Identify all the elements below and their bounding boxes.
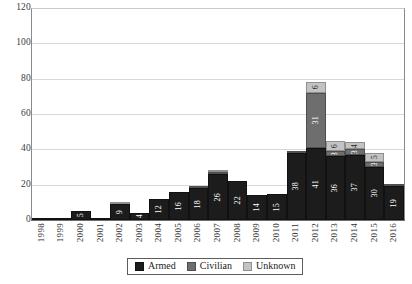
y-axis-tick-label: 120 [3, 3, 31, 13]
bar-column[interactable]: 5 [71, 211, 91, 220]
x-axis-tick-label: 2002 [115, 223, 124, 242]
bar-value-label: 22 [234, 196, 242, 204]
bar-segment-armed[interactable]: 9 [110, 204, 130, 220]
bar-value-label: 18 [194, 200, 202, 208]
bar-column[interactable]: 6336 [326, 141, 346, 220]
bar-segment-armed[interactable]: 26 [208, 174, 228, 220]
bar-column[interactable]: 19 [384, 184, 404, 220]
bar-column[interactable]: 18 [189, 186, 209, 220]
x-axis-tick-label: 2003 [135, 223, 144, 242]
bar-segment-unknown[interactable]: 6 [306, 82, 326, 93]
x-axis-tick-label: 1998 [37, 223, 46, 242]
y-axis-tick-label: 80 [3, 74, 31, 84]
legend-label-unknown: Unknown [256, 261, 295, 271]
bar-value-label: 37 [351, 183, 359, 191]
bar-segment-armed[interactable]: 15 [267, 194, 287, 221]
bar-value-label: 9 [116, 210, 124, 214]
x-axis-tick-label: 2012 [311, 223, 320, 242]
bar-segment-armed[interactable]: 16 [169, 192, 189, 220]
bar-value-label: 31 [312, 116, 320, 124]
bar-value-label: 36 [331, 184, 339, 192]
bar-segment-armed[interactable]: 37 [345, 155, 365, 220]
bar-segment-armed[interactable]: 18 [189, 188, 209, 220]
bar-value-label: 15 [273, 203, 281, 211]
x-axis-tick-label: 2004 [154, 223, 163, 242]
bar-value-label: 5 [77, 213, 85, 217]
bar-value-label: 38 [292, 182, 300, 190]
y-axis-tick-label: 20 [3, 180, 31, 190]
bar-segment-civilian[interactable]: 31 [306, 93, 326, 148]
bar-segment-armed[interactable]: 41 [306, 148, 326, 220]
bar-column[interactable]: 9 [110, 202, 130, 220]
bar-value-label: 26 [214, 193, 222, 201]
legend-label-armed: Armed [148, 261, 176, 271]
bar-column[interactable]: 14 [247, 195, 267, 220]
bar-segment-armed[interactable]: 22 [228, 181, 248, 220]
bar-segment-armed[interactable]: 19 [384, 186, 404, 220]
bar-value-label: 4 [136, 214, 144, 218]
bar-column[interactable]: 4 [130, 213, 150, 220]
legend-swatch-civilian-icon [187, 262, 196, 271]
x-axis-tick-labels: 1998199920002001200220032004200520062007… [32, 223, 404, 257]
x-axis-baseline [31, 220, 405, 221]
bar-segment-armed[interactable]: 30 [365, 167, 385, 220]
bar-column[interactable]: 4337 [345, 142, 365, 220]
x-axis-tick-label: 2011 [291, 223, 300, 242]
legend-label-civilian: Civilian [200, 261, 232, 271]
bar-value-label: 12 [155, 205, 163, 213]
y-axis-tick-label: 40 [3, 144, 31, 154]
bar-column[interactable]: 38 [287, 151, 307, 220]
y-axis-tick-label: 60 [3, 109, 31, 119]
bar-segment-armed[interactable]: 5 [71, 211, 91, 220]
stacked-bar-chart: 020406080100120 594121618262214153863141… [0, 0, 412, 284]
bar-segment-armed[interactable]: 36 [326, 156, 346, 220]
x-axis-tick-label: 2008 [233, 223, 242, 242]
bar-segment-unknown[interactable]: 6 [326, 141, 346, 152]
bar-value-label: 5 [371, 155, 379, 159]
bar-column[interactable]: 12 [149, 199, 169, 220]
bar-value-label: 6 [331, 144, 339, 148]
bar-segment-unknown[interactable]: 4 [345, 142, 365, 149]
x-axis-tick-label: 2000 [76, 223, 85, 242]
bar-column[interactable]: 16 [169, 192, 189, 220]
x-axis-tick-label: 2015 [370, 223, 379, 242]
bar-value-label: 3 [371, 162, 379, 166]
x-axis-tick-label: 1999 [56, 223, 65, 242]
bar-column[interactable]: 63141 [306, 82, 326, 220]
bar-value-label: 3 [331, 152, 339, 156]
bar-value-label: 30 [371, 189, 379, 197]
bar-column[interactable]: 15 [267, 194, 287, 221]
bar-value-label: 41 [312, 180, 320, 188]
x-axis-tick-label: 2001 [96, 223, 105, 242]
x-axis-tick-label: 2013 [330, 223, 339, 242]
bar-value-label: 6 [312, 85, 320, 89]
legend-swatch-armed-icon [135, 262, 144, 271]
bar-value-label: 4 [351, 144, 359, 148]
bar-value-label: 16 [175, 202, 183, 210]
bar-segment-armed[interactable]: 38 [287, 153, 307, 220]
bar-segment-armed[interactable]: 14 [247, 195, 267, 220]
bar-column[interactable]: 5330 [365, 153, 385, 220]
y-axis-tick-label: 100 [3, 38, 31, 48]
x-axis-tick-label: 2009 [252, 223, 261, 242]
x-axis-tick-label: 2005 [174, 223, 183, 242]
bar-segment-armed[interactable]: 4 [130, 213, 150, 220]
legend-item-civilian: Civilian [187, 261, 232, 271]
bar-column[interactable]: 22 [228, 181, 248, 220]
legend-swatch-unknown-icon [243, 262, 252, 271]
x-axis-tick-label: 2014 [350, 223, 359, 242]
x-axis-tick-label: 2007 [213, 223, 222, 242]
bar-segment-unknown[interactable]: 5 [365, 153, 385, 162]
legend-item-unknown: Unknown [243, 261, 295, 271]
bar-column[interactable]: 26 [208, 170, 228, 220]
x-axis-tick-label: 2006 [193, 223, 202, 242]
chart-legend: Armed Civilian Unknown [127, 258, 303, 275]
bar-series-container: 59412161826221415386314163364337533019 [32, 8, 404, 220]
bar-segment-armed[interactable]: 12 [149, 199, 169, 220]
y-axis-tick-label: 0 [3, 215, 31, 225]
x-axis-tick-label: 2010 [272, 223, 281, 242]
bar-value-label: 3 [351, 150, 359, 154]
legend-item-armed: Armed [135, 261, 176, 271]
bar-value-label: 19 [390, 199, 398, 207]
x-axis-tick-label: 2016 [389, 223, 398, 242]
